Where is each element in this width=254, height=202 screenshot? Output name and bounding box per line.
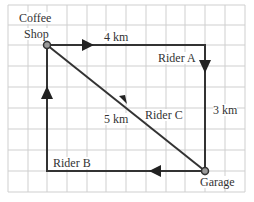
garage-point [202,168,209,175]
distance-top-label: 4 km [104,31,128,43]
arrow-left-icon [149,165,161,177]
coffee-label-line1: Coffee [19,12,51,24]
rider-b-label: Rider B [53,157,91,169]
arrow-right-icon [82,39,94,51]
distance-right-label: 3 km [213,104,237,116]
rider-a-label: Rider A [158,52,196,64]
coffee-shop-point [44,42,51,49]
distance-diagonal-label: 5 km [104,113,128,125]
rider-c-label: Rider C [145,109,183,121]
garage-label: Garage [200,176,235,188]
coffee-label-line2: Shop [24,28,49,40]
arrow-up-icon [41,86,53,99]
